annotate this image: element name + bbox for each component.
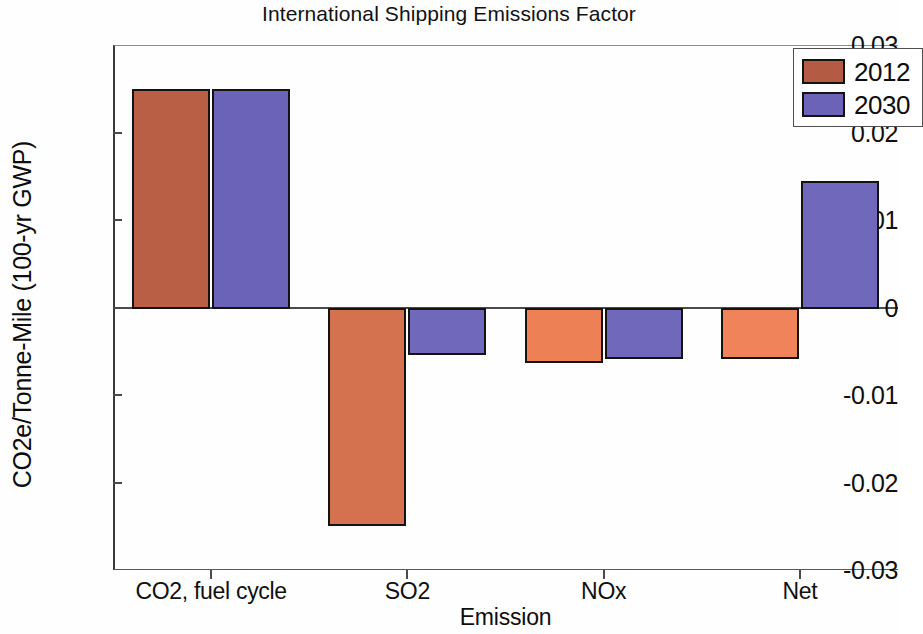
x-tick-label: CO2, fuel cycle <box>135 578 286 605</box>
legend-label-2012: 2012 <box>854 59 910 85</box>
chart-title: International Shipping Emissions Factor <box>0 2 898 26</box>
y-tick-mark <box>113 394 122 396</box>
y-axis-label: CO2e/Tonne-Mile (100-yr GWP) <box>8 35 37 595</box>
legend: 2012 2030 <box>793 48 923 127</box>
legend-swatch-2030 <box>802 92 845 117</box>
legend-item-2012[interactable]: 2012 <box>802 55 922 88</box>
bar-2030-nox <box>605 308 683 360</box>
bar-2012-co2-fuel-cycle <box>132 89 210 309</box>
bar-2012-so2 <box>328 308 406 526</box>
x-tick-label: NOx <box>581 578 626 605</box>
y-tick-mark <box>113 482 122 484</box>
bar-2030-so2 <box>408 308 486 355</box>
y-tick-mark <box>113 219 122 221</box>
y-tick-label: -0.03 <box>826 556 898 585</box>
x-axis-label: Emission <box>113 604 898 631</box>
y-tick-mark <box>113 132 122 134</box>
y-tick-label: -0.01 <box>826 381 898 410</box>
legend-item-2030[interactable]: 2030 <box>802 88 922 121</box>
legend-label-2030: 2030 <box>854 92 910 118</box>
x-tick-label: Net <box>782 578 817 605</box>
y-tick-mark <box>113 307 122 309</box>
y-tick-label: -0.02 <box>826 468 898 497</box>
bar-2030-co2-fuel-cycle <box>212 89 290 309</box>
bar-2012-net <box>721 308 799 360</box>
legend-swatch-2012 <box>802 59 845 84</box>
bar-2012-nox <box>525 308 603 363</box>
x-tick-label: SO2 <box>385 578 430 605</box>
bar-2030-net <box>801 181 879 309</box>
